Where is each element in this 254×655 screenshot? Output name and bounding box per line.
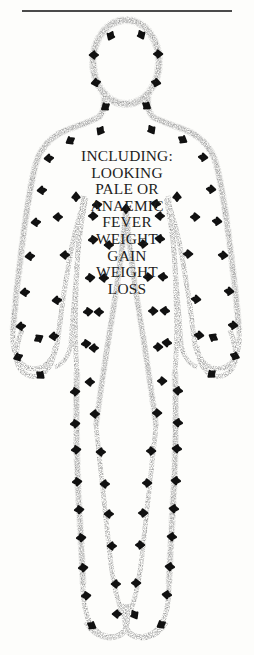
arrow-icon	[160, 306, 169, 315]
arrow-icon	[207, 185, 216, 194]
arrow-icon	[64, 135, 75, 146]
arrow-icon	[191, 213, 200, 221]
arrow-icon	[144, 273, 153, 281]
arrow-icon	[162, 338, 171, 347]
arrow-icon	[139, 240, 148, 248]
arrow-icon	[94, 308, 103, 316]
arrow-icon	[93, 200, 102, 209]
arrow-icon	[104, 241, 113, 249]
arrow-icon	[146, 124, 157, 135]
arrow-icon	[37, 186, 46, 195]
inward-arrows-group	[13, 29, 241, 631]
arrow-icon	[33, 333, 44, 344]
arrow-icon	[16, 322, 25, 331]
arrow-icon	[158, 272, 167, 281]
arrow-icon	[177, 134, 188, 145]
body-outline-group	[13, 20, 239, 638]
arrow-icon	[20, 288, 29, 297]
arrow-icon	[154, 343, 163, 351]
arrow-icon	[85, 378, 94, 386]
arrow-icon	[184, 250, 193, 258]
arrow-icon	[207, 332, 218, 343]
arrow-icon	[213, 217, 222, 226]
arrow-icon	[199, 153, 208, 162]
arrow-icon	[158, 377, 167, 385]
arrow-icon	[72, 192, 80, 201]
arrow-icon	[155, 234, 164, 243]
arrow-icon	[84, 307, 93, 316]
arrow-icon	[192, 295, 201, 304]
body-silhouette-svg	[0, 0, 254, 655]
arrow-icon	[155, 212, 164, 220]
arrow-icon	[89, 212, 98, 220]
arrow-icon	[44, 154, 53, 163]
arrow-icon	[99, 274, 108, 282]
poster-page: INCLUDING: LOOKING PALE OR ANAEMIC FEVER…	[0, 0, 254, 655]
arrow-icon	[151, 199, 160, 208]
arrow-icon	[31, 218, 40, 227]
arrow-icon	[53, 213, 62, 221]
arrow-icon	[149, 307, 158, 315]
arrow-icon	[173, 192, 181, 201]
arrow-icon	[86, 273, 95, 282]
arrow-icon	[89, 344, 98, 352]
body-outline-grain	[13, 20, 239, 584]
arrow-icon	[82, 339, 91, 348]
arrow-icon	[89, 235, 98, 244]
arrow-icon	[25, 252, 34, 261]
arrow-icon	[219, 251, 228, 260]
body-figure	[0, 0, 254, 655]
arrow-icon	[95, 125, 106, 136]
